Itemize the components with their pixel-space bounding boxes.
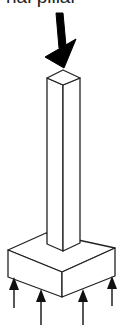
reaction-arrow-icon: [107, 276, 117, 306]
column: [47, 70, 80, 251]
pillar-footing-diagram: [0, 0, 126, 331]
reaction-arrow-icon: [9, 277, 19, 308]
reaction-arrow-icon: [36, 289, 46, 325]
load-arrow-icon: [45, 13, 76, 68]
reaction-arrow-icon: [78, 289, 88, 325]
